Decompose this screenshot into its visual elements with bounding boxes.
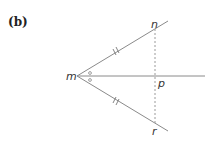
angle-mark-lower [89,79,92,82]
point-label-p: p [157,77,165,90]
geometry-diagram: m n p r [0,0,212,142]
point-label-m: m [66,70,77,83]
point-label-n: n [151,18,158,31]
segment-mr [77,76,168,131]
angle-mark-upper [89,72,92,75]
point-label-r: r [152,125,158,138]
